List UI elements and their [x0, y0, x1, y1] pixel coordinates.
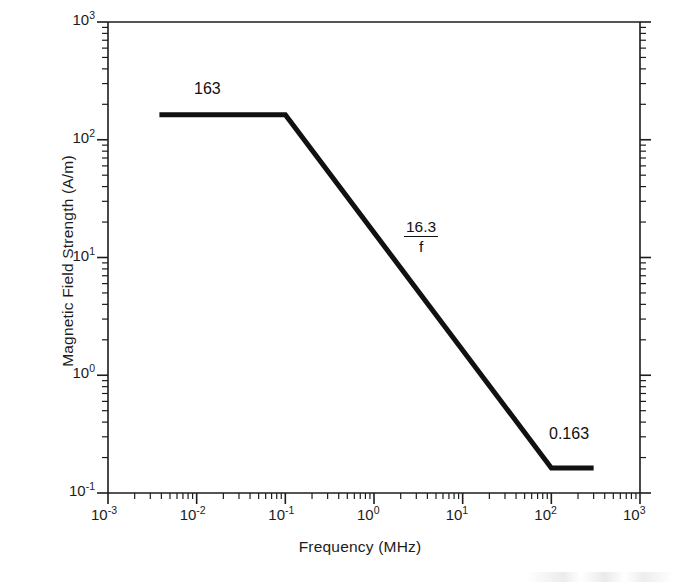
x-tick-exponent: 0 — [374, 504, 380, 516]
x-tick-exponent: 1 — [462, 504, 468, 516]
y-axis-ticks — [97, 22, 108, 493]
y-tick-label: 101 — [49, 247, 95, 264]
x-tick-label: 10-2 — [180, 506, 206, 523]
x-tick-exponent: 2 — [551, 504, 557, 516]
x-axis-title: Frequency (MHz) — [180, 538, 540, 556]
x-tick-exponent: 3 — [640, 504, 646, 516]
scan-artifact — [430, 572, 673, 582]
y-tick-mantissa: 10 — [69, 482, 86, 499]
y-tick-label: 10-1 — [49, 482, 95, 499]
y-tick-exponent: 3 — [89, 9, 95, 21]
x-tick-label: 10-1 — [268, 506, 294, 523]
y-tick-label: 102 — [49, 129, 95, 146]
y-tick-exponent: 2 — [89, 127, 95, 139]
annotation-formula-numerator: 16.3 — [404, 218, 438, 237]
x-tick-exponent: -3 — [108, 504, 117, 516]
y-tick-exponent: -1 — [86, 480, 95, 492]
data-line-0 — [159, 115, 593, 468]
x-axis-ticks — [108, 493, 640, 504]
annotation-plateau-high: 0.163 — [549, 425, 589, 443]
x-tick-label: 102 — [534, 506, 557, 523]
y-tick-label: 103 — [49, 11, 95, 28]
x-tick-mantissa: 10 — [180, 506, 197, 523]
annotation-slope-formula: 16.3 f — [404, 218, 438, 256]
y-tick-mantissa: 10 — [72, 364, 89, 381]
data-series-group — [159, 115, 593, 468]
x-tick-label: 103 — [623, 506, 646, 523]
x-tick-exponent: -1 — [285, 504, 294, 516]
x-tick-label: 101 — [446, 506, 469, 523]
y-tick-exponent: 1 — [89, 245, 95, 257]
x-tick-exponent: -2 — [196, 504, 205, 516]
axis-frame — [108, 22, 640, 493]
annotation-formula-denominator: f — [404, 237, 438, 255]
x-tick-mantissa: 10 — [268, 506, 285, 523]
x-tick-mantissa: 10 — [534, 506, 551, 523]
chart-plot-area — [0, 0, 673, 584]
y-tick-mantissa: 10 — [72, 247, 89, 264]
y-axis-ticks-right — [640, 22, 651, 493]
annotation-plateau-low: 163 — [194, 80, 221, 98]
x-tick-mantissa: 10 — [91, 506, 108, 523]
x-tick-mantissa: 10 — [623, 506, 640, 523]
x-tick-label: 100 — [357, 506, 380, 523]
y-tick-mantissa: 10 — [72, 129, 89, 146]
y-tick-label: 100 — [49, 364, 95, 381]
y-tick-exponent: 0 — [89, 362, 95, 374]
figure-container: Magnetic Field Strength (A/m) Frequency … — [0, 0, 673, 584]
y-tick-mantissa: 10 — [72, 11, 89, 28]
x-tick-label: 10-3 — [91, 506, 117, 523]
x-tick-mantissa: 10 — [357, 506, 374, 523]
x-tick-mantissa: 10 — [446, 506, 463, 523]
